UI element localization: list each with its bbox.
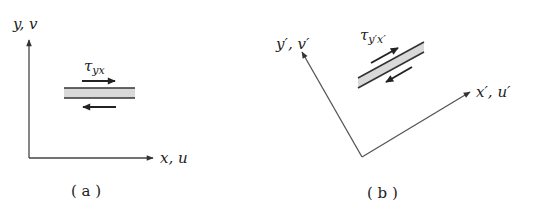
fluid-element-a	[64, 88, 135, 98]
x-axis-label-a: x, u	[160, 149, 188, 167]
caption-b: ( b )	[367, 184, 398, 202]
panel-a: y, v x, u τyx ( a )	[12, 15, 188, 200]
y-prime-axis-label-b: y′, v′	[275, 35, 310, 53]
fluid-element-b	[358, 42, 424, 88]
shear-stress-diagram: y, v x, u τyx ( a ) y′, v′ x′, u′	[0, 0, 537, 215]
caption-a: ( a )	[71, 182, 101, 200]
y-axis-label-a: y, v	[12, 15, 38, 33]
x-prime-axis-b	[362, 92, 470, 157]
shear-stress-label-a: τyx	[84, 57, 106, 77]
y-prime-axis-b	[302, 52, 362, 157]
x-prime-axis-label-b: x′, u′	[476, 83, 511, 101]
panel-b: y′, v′ x′, u′ τy′x′ ( b )	[275, 26, 511, 202]
shear-stress-label-b: τy′x′	[360, 26, 386, 46]
